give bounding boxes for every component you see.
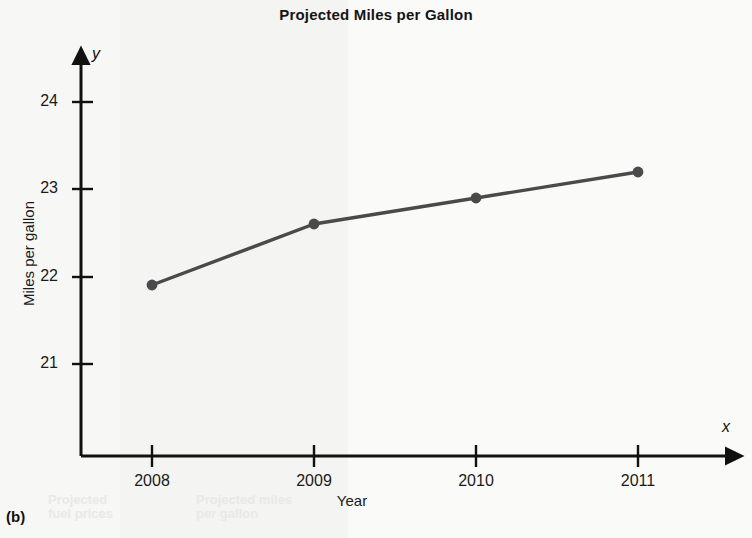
y-axis-variable-letter: y: [92, 45, 100, 63]
data-point-2010: [471, 193, 482, 204]
x-tick-label-2010: 2010: [436, 472, 516, 490]
line-chart-plot: [0, 0, 752, 538]
data-point-2009: [309, 219, 320, 230]
panel-label: (b): [6, 508, 25, 525]
figure-panel: Projected Miles per Gallon Projected fue…: [0, 0, 752, 538]
data-point-2008: [147, 280, 158, 291]
data-line-series-1: [152, 172, 638, 285]
y-axis-title: Miles per gallon: [20, 174, 37, 334]
x-axis-title: Year: [252, 492, 452, 509]
x-axis-variable-letter: x: [722, 418, 730, 436]
y-tick-label-21: 21: [18, 354, 58, 372]
y-tick-label-24: 24: [18, 92, 58, 110]
data-point-2011: [633, 167, 644, 178]
x-tick-label-2008: 2008: [112, 472, 192, 490]
x-tick-label-2009: 2009: [274, 472, 354, 490]
x-tick-label-2011: 2011: [598, 472, 678, 490]
